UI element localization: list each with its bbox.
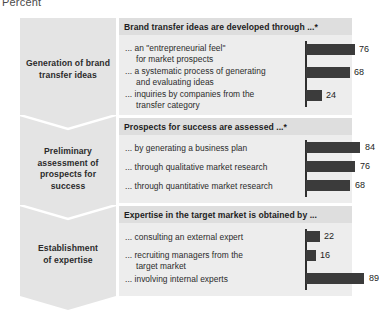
- table-row: ... inquiries by companies from the tran…: [119, 89, 352, 111]
- row-1-1-line2: for market prospects: [125, 54, 213, 64]
- bar-value: 76: [360, 161, 370, 172]
- stage-column-bottom-tip: [20, 296, 116, 310]
- panel-expertise-in-target-market: Expertise in the target market is obtain…: [119, 206, 352, 296]
- panel-2-header: Prospects for success are assessed ...*: [119, 118, 352, 135]
- bar: [306, 250, 316, 261]
- table-row: ... through quantitative market research…: [119, 180, 352, 199]
- row-label: ... inquiries by companies from the tran…: [125, 89, 303, 110]
- panel-1-header: Brand transfer ideas are developed throu…: [119, 18, 352, 35]
- row-1-1-line1: ... an "entrepreneurial feel": [125, 43, 226, 53]
- bar: [306, 273, 364, 284]
- row-label: ... a systematic process of generating a…: [125, 66, 303, 87]
- stage-1-label-line1: Generation of brand: [26, 58, 110, 68]
- stage-generation-of-brand-transfer-ideas: Generation of brand transfer ideas: [20, 18, 116, 123]
- bar-value: 89: [369, 273, 379, 284]
- bar-value: 68: [354, 67, 364, 78]
- table-row: ... involving internal experts 89: [119, 273, 352, 292]
- bar-value: 24: [326, 90, 336, 101]
- row-label: ... consulting an external expert: [125, 232, 303, 243]
- row-3-2-line2: target market: [125, 261, 186, 271]
- bar-value: 22: [324, 231, 334, 242]
- stage-1-label-line2: transfer ideas: [39, 70, 97, 80]
- panel-1-body: ... an "entrepreneurial feel" for market…: [119, 35, 352, 115]
- panel-1-header-text: Brand transfer ideas are developed throu…: [124, 22, 318, 32]
- table-row: ... by generating a business plan 84: [119, 142, 352, 161]
- panel-2-body: ... by generating a business plan 84 ...…: [119, 135, 352, 203]
- bar: [306, 67, 350, 78]
- stage-preliminary-assessment-of-prospects-for-success: Preliminary assessment of prospects for …: [20, 123, 116, 213]
- row-3-2-line1: ... recruiting managers from the: [125, 250, 243, 260]
- bar: [306, 180, 350, 191]
- row-label: ... an "entrepreneurial feel" for market…: [125, 43, 303, 64]
- panel-3-header-text: Expertise in the target market is obtain…: [124, 210, 317, 220]
- row-label: ... involving internal experts: [125, 274, 303, 285]
- bar-value: 16: [320, 250, 330, 261]
- panel-prospects-for-success: Prospects for success are assessed ...* …: [119, 118, 352, 203]
- row-3-3-line1: ... involving internal experts: [125, 274, 228, 284]
- bar: [306, 90, 322, 101]
- table-row: ... a systematic process of generating a…: [119, 66, 352, 88]
- bar-value: 76: [359, 44, 369, 55]
- stage-2-label-line1: Preliminary: [44, 146, 92, 156]
- panel-3-body: ... consulting an external expert 22 ...…: [119, 223, 352, 296]
- row-label: ... by generating a business plan: [125, 143, 303, 154]
- process-bar-chart: Generation of brand transfer ideas Preli…: [20, 18, 352, 310]
- row-label: ... recruiting managers from the target …: [125, 250, 303, 271]
- row-label: ... through qualitative market research: [125, 162, 303, 173]
- table-row: ... through qualitative market research …: [119, 161, 352, 180]
- row-1-2-line2: and evaluating ideas: [125, 77, 214, 87]
- bar: [306, 161, 355, 172]
- row-3-1-line1: ... consulting an external expert: [125, 232, 243, 242]
- stage-3-label-line1: Establishment: [38, 243, 98, 253]
- row-1-3-line1: ... inquiries by companies from the: [125, 89, 254, 99]
- stage-2-label-line4: success: [51, 181, 86, 191]
- panel-3-header: Expertise in the target market is obtain…: [119, 206, 352, 223]
- bar: [306, 142, 360, 153]
- row-1-2-line1: ... a systematic process of generating: [125, 66, 266, 76]
- panel-2-header-text: Prospects for success are assessed ...*: [124, 122, 287, 132]
- content-column: Brand transfer ideas are developed throu…: [119, 18, 352, 310]
- bar: [306, 231, 320, 242]
- panel-brand-transfer-ideas: Brand transfer ideas are developed throu…: [119, 18, 352, 115]
- bar: [306, 44, 355, 55]
- row-1-3-line2: transfer category: [125, 100, 200, 110]
- bar-value: 84: [365, 142, 375, 153]
- unit-caption: Percent: [2, 0, 41, 8]
- row-label: ... through quantitative market research: [125, 181, 309, 192]
- row-2-2-line1: ... through qualitative market research: [125, 162, 268, 172]
- stage-column: Generation of brand transfer ideas Preli…: [20, 18, 116, 310]
- stage-establishment-of-expertise: Establishment of expertise: [20, 213, 116, 296]
- bar-value: 68: [355, 180, 365, 191]
- table-row: ... recruiting managers from the target …: [119, 250, 352, 272]
- stage-2-label-line3: prospects for: [40, 169, 96, 179]
- row-2-3-line1: ... through quantitative market research: [125, 181, 273, 191]
- row-2-1-line1: ... by generating a business plan: [125, 143, 247, 153]
- table-row: ... an "entrepreneurial feel" for market…: [119, 43, 352, 65]
- stage-2-label-line2: assessment of: [37, 158, 98, 168]
- stage-3-label-line2: of expertise: [43, 255, 92, 265]
- table-row: ... consulting an external expert 22: [119, 231, 352, 250]
